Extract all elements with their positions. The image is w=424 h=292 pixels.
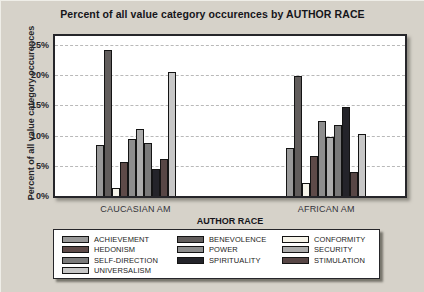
y-tick-label-20: 20% [19,70,49,80]
legend-entry-stimulation: STIMULATION [282,256,377,265]
y-tick-label-0: 0% [19,191,49,201]
x-axis-title: AUTHOR RACE [53,216,407,226]
bar-benevolence-african-am [294,76,302,196]
legend-label: HEDONISM [94,245,135,254]
legend-box: ACHIEVEMENTBENEVOLENCECONFORMITYHEDONISM… [53,229,380,279]
y-tick-label-25: 25% [19,40,49,50]
legend-label: CONFORMITY [314,235,365,244]
legend-swatch-power [177,246,204,253]
bar-achievement-caucasian-am [96,145,104,196]
legend-entry-self-direction: SELF-DIRECTION [62,256,177,265]
bar-spirituality-caucasian-am [152,169,160,196]
bar-cluster-caucasian-am [96,50,176,196]
bar-hedonism-african-am [310,156,318,196]
legend-entry-universalism: UNIVERSALISM [62,266,177,275]
legend-swatch-benevolence [177,236,204,243]
legend-label: ACHIEVEMENT [94,235,149,244]
legend-label: SELF-DIRECTION [94,256,158,265]
legend-swatch-stimulation [282,257,309,264]
legend-label: STIMULATION [314,256,365,265]
legend-entry-security: SECURITY [282,245,377,254]
legend-swatch-hedonism [62,246,89,253]
y-tick-label-10: 10% [19,131,49,141]
chart-title: Percent of all value category occurences… [1,8,424,20]
bar-power-caucasian-am [128,139,136,196]
bar-security-caucasian-am [136,129,144,196]
plot-area [53,34,407,198]
chart-canvas: Percent of all value category occurences… [0,0,424,292]
bar-achievement-african-am [286,148,294,196]
legend-label: UNIVERSALISM [94,266,151,275]
bar-hedonism-caucasian-am [120,162,128,196]
bar-stimulation-caucasian-am [160,159,168,196]
legend-entry-benevolence: BENEVOLENCE [177,235,282,244]
bar-power-african-am [318,121,326,196]
bar-self-direction-caucasian-am [144,143,152,196]
category-label-caucasian-am: CAUCASIAN AM [100,204,170,214]
legend-grid: ACHIEVEMENTBENEVOLENCECONFORMITYHEDONISM… [62,234,379,276]
category-label-african-am: AFRICAN AM [298,204,355,214]
bar-cluster-african-am [286,76,366,196]
legend-swatch-security [282,246,309,253]
legend-swatch-universalism [62,267,89,274]
legend-entry-achievement: ACHIEVEMENT [62,235,177,244]
bar-spirituality-african-am [342,107,350,196]
bar-self-direction-african-am [334,125,342,196]
bar-benevolence-caucasian-am [104,50,112,196]
gridline-25 [55,45,405,46]
legend-label: POWER [209,245,238,254]
bar-conformity-caucasian-am [112,188,120,196]
bar-stimulation-african-am [350,172,358,196]
legend-label: BENEVOLENCE [209,235,266,244]
legend-swatch-spirituality [177,257,204,264]
legend-entry-power: POWER [177,245,282,254]
bar-security-african-am [326,137,334,196]
legend-swatch-conformity [282,236,309,243]
legend-swatch-achievement [62,236,89,243]
bar-universalism-african-am [358,134,366,196]
legend-label: SECURITY [314,245,353,254]
legend-entry-hedonism: HEDONISM [62,245,177,254]
y-tick-label-15: 15% [19,100,49,110]
legend-label: SPIRITUALITY [209,256,261,265]
legend-swatch-self-direction [62,257,89,264]
bar-universalism-caucasian-am [168,72,176,196]
legend-entry-spirituality: SPIRITUALITY [177,256,282,265]
y-tick-label-5: 5% [19,161,49,171]
legend-entry-conformity: CONFORMITY [282,235,377,244]
bar-conformity-african-am [302,183,310,196]
